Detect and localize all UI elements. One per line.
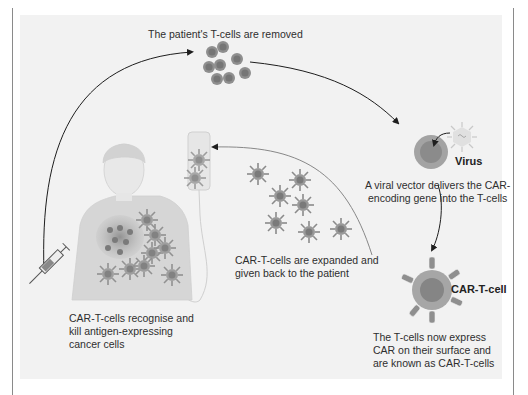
step-transduce-label: A viral vector delivers the CAR- encodin… <box>365 179 510 205</box>
virus-label: Virus <box>455 155 482 168</box>
step-kill-label: CAR-T-cells recognise and kill antigen-e… <box>69 312 194 351</box>
step-expand-label: CAR-T-cells are expanded and given back … <box>235 254 379 280</box>
arrow-to-virus <box>250 62 398 123</box>
step-remove-label: The patient's T-cells are removed <box>148 28 303 41</box>
virus-icon <box>447 122 477 152</box>
step-express-label: The T-cells now express CAR on their sur… <box>373 331 494 370</box>
arrow-to-iv-bag <box>213 147 372 255</box>
expanded-car-t-cells <box>247 163 352 243</box>
t-cell-cluster <box>203 41 251 99</box>
syringe-icon <box>26 243 70 287</box>
car-t-cell-label: CAR-T-cell <box>451 283 507 296</box>
t-cell-infected <box>414 135 448 169</box>
